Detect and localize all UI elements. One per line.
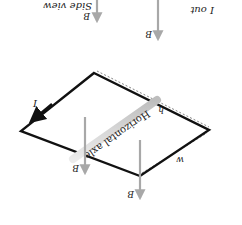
side-view-label: Side view [43, 1, 92, 12]
current-loop-figure: Side view I out B B h w I Horizontal axl… [0, 0, 242, 225]
current-label: I [32, 98, 38, 109]
field-label: B [72, 163, 80, 173]
field-label: B [83, 11, 91, 21]
side-view: Side view I out [43, 1, 215, 16]
field-label: B [145, 29, 153, 39]
width-label: w [176, 155, 184, 165]
axle-label: Horizontal axle [82, 108, 152, 162]
field-label: B [127, 189, 135, 199]
current-out-label: I out [189, 5, 215, 16]
